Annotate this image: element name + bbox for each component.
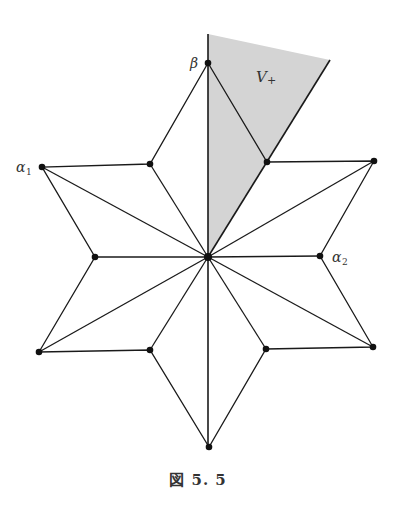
label-alpha2-sub: 2 bbox=[342, 257, 348, 267]
label-alpha2: α bbox=[332, 249, 342, 265]
label-alpha1-sub: 1 bbox=[26, 167, 32, 177]
label-alpha1: α bbox=[16, 159, 26, 175]
star-root-system-diagram: β α 1 α 2 V + bbox=[0, 0, 396, 507]
shaded-region-v-plus bbox=[208, 34, 330, 257]
label-v-plus-sub: + bbox=[267, 74, 276, 87]
vertex-dots bbox=[36, 60, 378, 451]
label-beta: β bbox=[189, 55, 198, 71]
figure-caption: 図 5. 5 bbox=[0, 468, 396, 489]
